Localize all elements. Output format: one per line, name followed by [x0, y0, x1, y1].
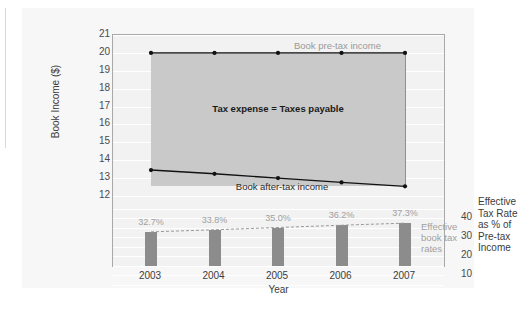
book-pre-tax-income-marker	[403, 51, 407, 55]
x-axis-tick-label: 2003	[139, 270, 161, 281]
y-axis-right-title-line: Tax Rate	[478, 208, 522, 220]
y-axis-left-tick: 19	[99, 65, 110, 75]
book-after-tax-income-marker	[339, 180, 343, 184]
book-after-tax-income-marker	[403, 184, 407, 188]
book-pre-tax-income-marker	[276, 51, 280, 55]
x-axis-tick-labels: 20032004200520062007	[112, 270, 445, 284]
book-after-tax-income-marker	[276, 176, 280, 180]
y-axis-right-title-line: as % of	[478, 219, 522, 231]
y-axis-right-title: EffectiveTax Rateas % ofPre-taxIncome	[478, 196, 522, 254]
y-axis-left-title: Book Income ($)	[50, 47, 61, 157]
y-axis-right-tick: 10	[461, 269, 472, 279]
book-pre-tax-income-marker	[339, 51, 343, 55]
y-axis-left-tick: 13	[99, 172, 110, 182]
y-axis-left-tick: 20	[99, 47, 110, 57]
x-axis-tick-label: 2007	[393, 270, 415, 281]
effective-tax-rate-trendline	[151, 223, 405, 232]
book-after-tax-income-marker	[149, 168, 153, 172]
y-axis-left-tick: 18	[99, 83, 110, 93]
y-axis-right-tick: 40	[461, 212, 472, 222]
book-pre-tax-income-marker	[212, 51, 216, 55]
y-axis-left-tick: 12	[99, 190, 110, 200]
y-axis-right-ticks: 40302010	[452, 34, 472, 267]
y-axis-left-tick: 21	[99, 29, 110, 39]
y-axis-right-tick: 30	[461, 231, 472, 241]
chart-figure-panel: 21201918171615141312 Book Income ($) Tax…	[22, 8, 474, 288]
y-axis-right-tick: 20	[461, 250, 472, 260]
x-axis-title: Year	[112, 284, 445, 295]
x-axis-tick-label: 2006	[329, 270, 351, 281]
book-pre-tax-income-marker	[149, 51, 153, 55]
book-after-tax-income-marker	[212, 172, 216, 176]
y-axis-left-tick: 15	[99, 136, 110, 146]
y-axis-right-title-line: Income	[478, 242, 522, 254]
y-axis-right-title-line: Effective	[478, 196, 522, 208]
income-lines	[113, 35, 444, 266]
book-pre-tax-income-label: Book pre-tax income	[294, 40, 381, 51]
x-axis-tick-label: 2004	[202, 270, 224, 281]
book-after-tax-income-label: Book after-tax income	[236, 181, 328, 192]
y-axis-left-tick: 16	[99, 118, 110, 128]
y-axis-right-title-line: Pre-tax	[478, 231, 522, 243]
page-left-rule	[5, 8, 6, 148]
plot-area: Tax expense = Taxes payable 32.7%33.8%35…	[112, 34, 445, 267]
y-axis-left-tick: 17	[99, 101, 110, 111]
y-axis-left-tick: 14	[99, 154, 110, 164]
x-axis-tick-label: 2005	[266, 270, 288, 281]
y-axis-left-ticks: 21201918171615141312	[82, 34, 110, 267]
